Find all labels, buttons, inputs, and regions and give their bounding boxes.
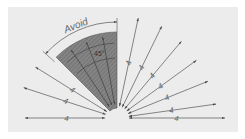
dimension-value: 4	[174, 114, 179, 123]
dimension-value: 4	[64, 114, 69, 123]
extension-line	[43, 51, 55, 62]
dimension-ray: 4	[129, 114, 225, 123]
dimension-ray: 4	[129, 104, 216, 116]
avoid-label: Avoid	[61, 15, 89, 35]
dimension-value: 4	[137, 63, 147, 71]
dimension-ray: 4	[125, 41, 182, 108]
dimension-value: 4	[68, 85, 77, 95]
dimension-value: 4	[62, 96, 70, 106]
dimension-orientation-diagram: 4444444444 Avoid 45°	[0, 0, 245, 139]
dimension-value: 4	[124, 59, 134, 66]
angle-label: 45°	[94, 50, 105, 57]
dimension-value: 4	[163, 93, 171, 103]
dimension-rays: 4444444444	[24, 18, 225, 122]
dimension-value: 4	[147, 71, 157, 81]
dimension-ray: 4	[25, 114, 105, 123]
dimension-value: 4	[156, 81, 165, 91]
